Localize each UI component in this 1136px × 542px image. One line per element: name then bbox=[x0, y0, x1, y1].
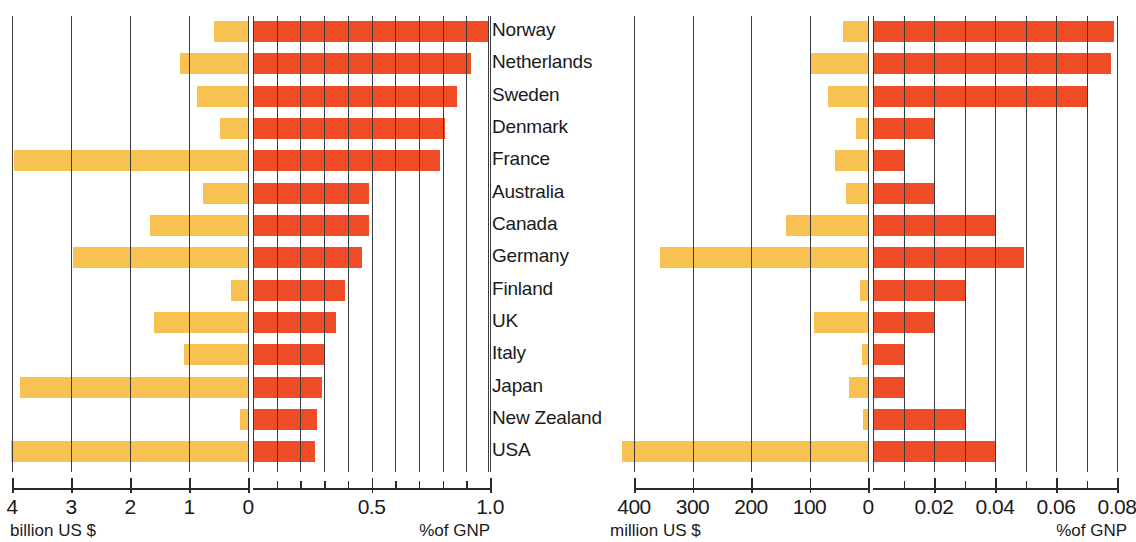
gridline-gnp-0.4 bbox=[348, 16, 349, 472]
bar-money-canada bbox=[786, 215, 868, 236]
bar-gnp-norway bbox=[253, 21, 488, 42]
axis-caption-billion-usd: billion US $ bbox=[10, 521, 96, 541]
ticklabel-money-300: 300 bbox=[676, 495, 710, 519]
bar-row bbox=[600, 81, 1127, 113]
bar-row bbox=[0, 275, 500, 307]
gridline-gnp-0.1 bbox=[277, 16, 278, 472]
bar-money-netherlands bbox=[810, 53, 869, 74]
bar-gnp-finland bbox=[253, 280, 345, 301]
gridline-gnp-0.2 bbox=[300, 16, 301, 472]
gridline-money-400 bbox=[634, 16, 635, 472]
bar-row bbox=[600, 307, 1127, 339]
bar-money-sweden bbox=[197, 86, 248, 107]
ticklabel-money-100: 100 bbox=[793, 495, 827, 519]
bar-row bbox=[0, 178, 500, 210]
axis-caption-percent-gnp-right: %of GNP bbox=[1056, 521, 1127, 541]
bar-money-germany bbox=[73, 247, 248, 268]
gridline-gnp-0.08 bbox=[1117, 16, 1118, 472]
ticklabel-gnp-1.0: 1.0 bbox=[476, 495, 504, 519]
bar-row bbox=[600, 242, 1127, 274]
gridline-gnp-0.9 bbox=[466, 16, 467, 472]
gridline-money-300 bbox=[693, 16, 694, 472]
gridline-money-2 bbox=[130, 16, 131, 472]
bar-money-denmark bbox=[856, 118, 868, 139]
bar-gnp-finland bbox=[873, 280, 965, 301]
country-label-japan: Japan bbox=[492, 370, 543, 402]
bar-gnp-germany bbox=[873, 247, 1024, 268]
tick-gnp-0.4 bbox=[348, 481, 350, 490]
gridline-gnp-0.05 bbox=[1026, 16, 1027, 472]
bar-gnp-canada bbox=[253, 215, 369, 236]
bar-gnp-australia bbox=[253, 183, 369, 204]
country-label-germany: Germany bbox=[492, 240, 569, 272]
bar-row bbox=[600, 178, 1127, 210]
gridline-money-200 bbox=[751, 16, 752, 472]
bar-money-australia bbox=[846, 183, 868, 204]
bar-gnp-japan bbox=[253, 377, 322, 398]
tick-gnp-0.7 bbox=[419, 481, 421, 490]
tick-money-200 bbox=[751, 478, 753, 493]
bar-money-japan bbox=[20, 377, 248, 398]
country-label-new-zealand: New Zealand bbox=[492, 402, 602, 434]
bar-row bbox=[0, 210, 500, 242]
bar-money-denmark bbox=[220, 118, 248, 139]
country-label-usa: USA bbox=[492, 434, 530, 466]
bar-gnp-italy bbox=[873, 344, 904, 365]
gridline-gnp-0.3 bbox=[324, 16, 325, 472]
bar-row bbox=[600, 372, 1127, 404]
gridline-gnp-0.5 bbox=[372, 16, 373, 472]
chart-panel-left: 432100.51.0 billion US $ %of GNP bbox=[0, 0, 500, 542]
ticklabel-money-0: 0 bbox=[862, 495, 873, 519]
tick-gnp-0.07 bbox=[1087, 481, 1089, 490]
tick-money-3 bbox=[71, 478, 73, 493]
tick-gnp-0.06 bbox=[1056, 478, 1058, 493]
bar-money-usa bbox=[622, 441, 868, 462]
country-label-norway: Norway bbox=[492, 14, 555, 46]
bar-row bbox=[0, 436, 500, 468]
tick-gnp-0.8 bbox=[443, 481, 445, 490]
gridline-money-1 bbox=[189, 16, 190, 472]
country-label-uk: UK bbox=[492, 305, 518, 337]
bar-row bbox=[600, 48, 1127, 80]
chart-panel-right: 40030020010000.020.040.060.08 million US… bbox=[600, 0, 1127, 542]
tick-gnp-0.2 bbox=[300, 481, 302, 490]
gridline-money-100 bbox=[810, 16, 811, 472]
tick-money-0 bbox=[868, 478, 870, 493]
axis-caption-million-usd: million US $ bbox=[610, 521, 701, 541]
tick-money-400 bbox=[634, 478, 636, 493]
ticklabel-gnp-0.04: 0.04 bbox=[976, 495, 1015, 519]
tick-gnp-0.02 bbox=[934, 478, 936, 493]
gridline-gnp-0 bbox=[253, 16, 254, 472]
bar-money-germany bbox=[660, 247, 868, 268]
bar-row bbox=[600, 436, 1127, 468]
bar-money-canada bbox=[150, 215, 248, 236]
bar-row bbox=[0, 372, 500, 404]
tick-money-2 bbox=[130, 478, 132, 493]
bar-money-uk bbox=[814, 312, 868, 333]
tick-money-0 bbox=[248, 478, 250, 493]
bar-row bbox=[600, 210, 1127, 242]
tick-gnp-1 bbox=[490, 478, 492, 493]
tick-gnp-0.6 bbox=[395, 481, 397, 490]
ticklabel-money-2: 2 bbox=[124, 495, 135, 519]
country-label-canada: Canada bbox=[492, 208, 557, 240]
bar-row bbox=[0, 16, 500, 48]
bar-money-new-zealand bbox=[240, 409, 248, 430]
gridline-money-4 bbox=[12, 16, 13, 472]
bar-gnp-sweden bbox=[253, 86, 457, 107]
country-label-australia: Australia bbox=[492, 176, 564, 208]
tick-gnp-0.04 bbox=[995, 478, 997, 493]
tick-gnp-0.05 bbox=[1026, 481, 1028, 490]
bar-row bbox=[600, 113, 1127, 145]
bar-row bbox=[0, 307, 500, 339]
ticklabel-gnp-0.02: 0.02 bbox=[915, 495, 954, 519]
gridline-gnp-0.03 bbox=[965, 16, 966, 472]
tick-gnp-0.1 bbox=[277, 481, 279, 490]
bar-row bbox=[0, 81, 500, 113]
country-label-finland: Finland bbox=[492, 273, 553, 305]
bar-gnp-norway bbox=[873, 21, 1114, 42]
bar-gnp-italy bbox=[253, 344, 324, 365]
bar-money-netherlands bbox=[180, 53, 248, 74]
tick-gnp-0.5 bbox=[372, 478, 374, 493]
